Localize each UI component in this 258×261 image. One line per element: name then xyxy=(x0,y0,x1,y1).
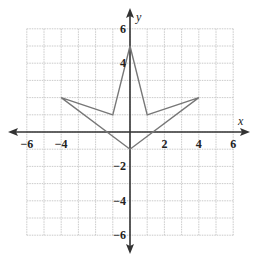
x-tick-label: 4 xyxy=(196,137,202,151)
y-axis-label: y xyxy=(135,10,142,24)
coordinate-plane: −6−424664−2−4−6xy xyxy=(0,0,258,261)
x-axis-label: x xyxy=(237,114,244,128)
x-tick-label: 2 xyxy=(161,137,167,151)
y-tick-label: −2 xyxy=(113,159,126,173)
y-tick-label: 4 xyxy=(120,56,126,70)
y-tick-label: 6 xyxy=(120,22,126,36)
y-tick-label: −6 xyxy=(113,228,126,242)
x-tick-label: −6 xyxy=(20,137,33,151)
x-tick-label: 6 xyxy=(230,137,236,151)
x-tick-label: −4 xyxy=(55,137,68,151)
y-tick-label: −4 xyxy=(113,194,126,208)
tick-labels: −6−424664−2−4−6xy xyxy=(20,10,244,242)
